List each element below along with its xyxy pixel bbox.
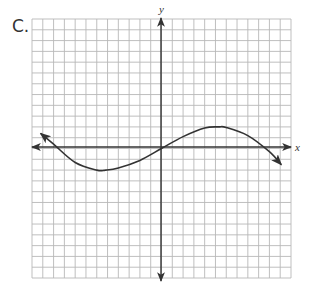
y-axis-label: y (158, 3, 164, 15)
graph: x y (0, 0, 311, 294)
x-axis-label: x (294, 141, 300, 153)
